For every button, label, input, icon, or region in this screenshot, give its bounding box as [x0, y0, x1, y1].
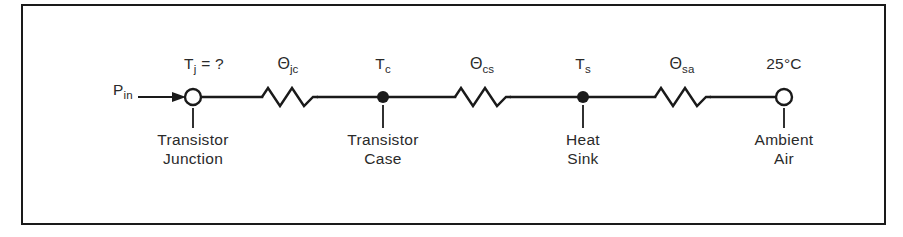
theta-jc-label: Θjc [278, 55, 299, 74]
caption-line: Transistor [157, 131, 228, 150]
node-sink-filled-dot [577, 91, 589, 103]
thermal-circuit-drawing [0, 0, 903, 237]
node-ambient-open-circle [776, 89, 792, 105]
theta-cs-label: Θcs [470, 55, 494, 74]
resistor-theta-cs [455, 88, 511, 106]
caption-line: Sink [566, 150, 600, 169]
resistor-theta-jc [262, 88, 318, 106]
ambient-temperature-label: 25°C [766, 55, 801, 72]
caption-ambient-air: Ambient Air [755, 131, 814, 168]
caption-transistor-case: Transistor Case [347, 131, 418, 168]
theta-sa-label: Θsa [670, 55, 695, 74]
resistor-theta-sa [655, 88, 711, 106]
caption-line: Case [347, 150, 418, 169]
node-case-filled-dot [377, 91, 389, 103]
p-in-label: Pin [113, 81, 133, 100]
junction-temperature-label: Tj = ? [184, 55, 224, 74]
caption-line: Air [755, 150, 814, 169]
caption-line: Junction [157, 150, 228, 169]
case-temperature-label: Tc [375, 55, 391, 74]
caption-line: Transistor [347, 131, 418, 150]
caption-heat-sink: Heat Sink [566, 131, 600, 168]
caption-leader-lines [193, 105, 784, 128]
caption-transistor-junction: Transistor Junction [157, 131, 228, 168]
p-in-arrow-icon [138, 92, 186, 102]
caption-line: Heat [566, 131, 600, 150]
sink-temperature-label: Ts [575, 55, 591, 74]
figure-screenshot: Pin Tj = ? Θjc Tc Θcs Ts Θsa 25°C Transi… [0, 0, 903, 237]
caption-line: Ambient [755, 131, 814, 150]
node-junction-open-circle [185, 89, 201, 105]
